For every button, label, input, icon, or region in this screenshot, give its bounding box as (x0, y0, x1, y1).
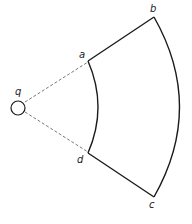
label-c: c (149, 199, 155, 210)
label-b: b (150, 3, 156, 14)
segment-ab (88, 17, 154, 61)
outer-arc-bc (154, 17, 180, 197)
diagram: q a b c d (0, 0, 192, 224)
dashed-line-qd (25, 112, 88, 152)
inner-arc-ad (88, 61, 98, 153)
segment-dc (88, 153, 154, 197)
label-q: q (15, 86, 21, 97)
label-d: d (77, 154, 84, 165)
charge-circle (11, 101, 25, 115)
dashed-line-qa (25, 62, 88, 102)
label-a: a (79, 49, 85, 60)
